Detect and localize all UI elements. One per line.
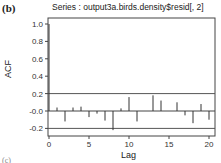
x-tick-label: 20 (205, 140, 214, 149)
y-tick-label: 0.6 (32, 55, 44, 64)
y-tick-label: 0.2 (32, 90, 44, 99)
acf-plot: -0.2-0.00.20.40.60.81.005101520 (0, 0, 221, 163)
x-tick-label: 5 (87, 140, 92, 149)
x-tick-label: 10 (125, 140, 134, 149)
plot-frame (48, 18, 215, 136)
y-tick-label: -0.0 (29, 107, 43, 116)
y-tick-label: -0.2 (29, 124, 43, 133)
x-tick-label: 15 (165, 140, 174, 149)
y-tick-label: 0.4 (32, 72, 44, 81)
y-tick-label: 1.0 (32, 20, 44, 29)
x-tick-label: 0 (47, 140, 52, 149)
y-tick-label: 0.8 (32, 37, 44, 46)
